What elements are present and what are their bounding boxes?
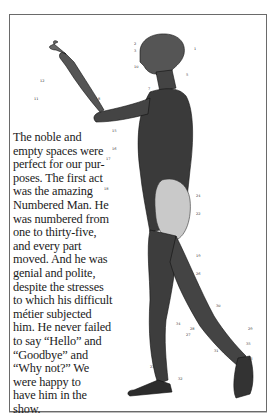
passage-line: to say “Hello” and	[13, 335, 138, 349]
svg-text:12: 12	[40, 79, 44, 83]
passage-line: was the amazing	[13, 185, 138, 199]
passage-line: him. He never failed	[13, 321, 138, 335]
passage-line: were happy to	[13, 376, 138, 390]
passage-line: moved. And he was	[13, 253, 138, 267]
passage-line: was numbered from	[13, 213, 138, 227]
svg-text:31: 31	[214, 349, 218, 353]
passage-line: perfect for our pur-	[13, 158, 138, 172]
svg-text:22: 22	[196, 212, 200, 216]
svg-text:35: 35	[246, 342, 250, 346]
svg-text:19: 19	[196, 254, 200, 258]
passage-line: The noble and	[13, 131, 138, 145]
passage-line: have him in the	[13, 389, 138, 403]
passage-line: show.	[13, 403, 138, 417]
svg-text:23: 23	[150, 365, 154, 369]
svg-text:30: 30	[216, 304, 220, 308]
svg-text:7: 7	[148, 87, 150, 91]
svg-text:32: 32	[178, 377, 182, 381]
svg-text:24: 24	[196, 194, 201, 198]
passage-line: “Goodbye” and	[13, 349, 138, 363]
passage-line: genial and polite,	[13, 267, 138, 281]
passage-text: The noble and empty spaces were perfect …	[13, 131, 138, 416]
svg-text:3: 3	[134, 49, 136, 53]
svg-text:10: 10	[134, 65, 138, 69]
svg-text:26: 26	[196, 272, 200, 276]
svg-text:2: 2	[134, 42, 136, 46]
passage-line: poses. The first act	[13, 172, 138, 186]
svg-text:27: 27	[186, 333, 190, 337]
passage-line: métier subjected	[13, 308, 138, 322]
passage-line: “Why not?” We	[13, 362, 138, 376]
passage-line: empty spaces were	[13, 145, 138, 159]
svg-text:28: 28	[190, 327, 194, 331]
passage-line: one to thirty-five,	[13, 226, 138, 240]
passage-line: Numbered Man. He	[13, 199, 138, 213]
svg-text:5: 5	[186, 73, 188, 77]
svg-text:11: 11	[34, 97, 38, 101]
passage-line: and every part	[13, 240, 138, 254]
book-page: 213 1057 12118 151617 182422 192630 2827…	[0, 0, 275, 419]
passage-line: despite the stresses	[13, 281, 138, 295]
passage-line: to which his difficult	[13, 294, 138, 308]
svg-text:33: 33	[248, 357, 252, 361]
svg-text:29: 29	[248, 327, 252, 331]
svg-text:1: 1	[194, 47, 196, 51]
svg-text:8: 8	[98, 97, 100, 101]
svg-text:34: 34	[176, 322, 181, 326]
